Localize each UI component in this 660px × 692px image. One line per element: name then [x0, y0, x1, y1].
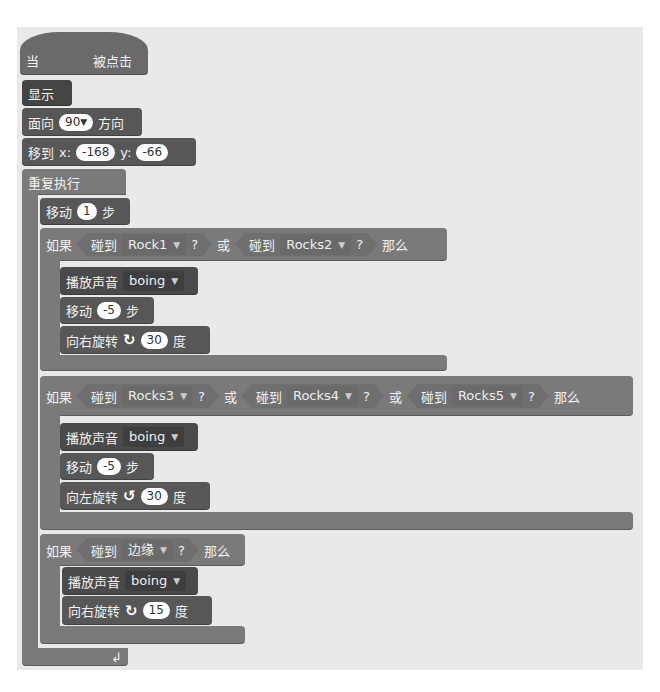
hat-prefix: 当 [26, 51, 39, 70]
q-mark: ? [363, 389, 370, 404]
move-block[interactable]: 移动 1 步 [40, 198, 130, 225]
direction-input[interactable]: 90▼ [59, 114, 93, 131]
move-suffix: 步 [126, 457, 139, 476]
then-label: 那么 [382, 235, 408, 254]
turn-right-icon: ↻ [125, 602, 138, 620]
y-label: y: [120, 145, 131, 160]
q-mark: ? [356, 237, 363, 252]
x-input[interactable]: -168 [76, 144, 115, 161]
sound-dropdown[interactable]: boing▼ [123, 427, 184, 447]
move-suffix: 步 [126, 301, 139, 320]
turn-prefix: 向左旋转 [66, 487, 118, 506]
turn-suffix: 度 [173, 331, 186, 350]
y-input[interactable]: -66 [136, 144, 168, 161]
move-suffix: 步 [102, 202, 115, 221]
turn-prefix: 向右旋转 [68, 601, 120, 620]
if-block-2[interactable]: 如果 碰到 Rocks3▼ ? 或 碰到 Rocks4▼ ? 或 碰到 Rock… [40, 376, 633, 416]
forever-label: 重复执行 [28, 173, 80, 192]
steps-input[interactable]: -5 [97, 458, 121, 475]
or-label: 或 [389, 387, 402, 406]
if-arm [40, 412, 60, 516]
play-sound-block[interactable]: 播放声音 boing▼ [62, 567, 198, 595]
if-footer [40, 626, 245, 644]
x-label: x: [59, 145, 71, 160]
turn-right-block[interactable]: 向右旋转 ↻ 15 度 [62, 596, 212, 625]
forever-arm [22, 190, 38, 660]
show-block[interactable]: 显示 [22, 80, 72, 106]
target-dropdown[interactable]: Rocks3▼ [122, 386, 193, 406]
play-sound-block[interactable]: 播放声音 boing▼ [60, 267, 198, 295]
target-dropdown[interactable]: Rocks2▼ [280, 235, 351, 255]
move-block[interactable]: 移动 -5 步 [60, 453, 154, 480]
move-prefix: 移动 [66, 301, 92, 320]
turn-prefix: 向右旋转 [66, 331, 118, 350]
move-prefix: 移动 [66, 457, 92, 476]
if-footer [40, 355, 447, 371]
if-label: 如果 [46, 541, 72, 560]
degrees-input[interactable]: 15 [143, 602, 170, 619]
if-label: 如果 [46, 235, 72, 254]
target-dropdown[interactable]: 边缘▼ [122, 540, 173, 560]
q-mark: ? [178, 543, 185, 558]
goto-xy-block[interactable]: 移到 x: -168 y: -66 [22, 138, 196, 166]
forever-footer: ↲ [22, 648, 128, 666]
q-mark: ? [191, 237, 198, 252]
touching-condition-1[interactable]: 碰到 Rock1▼ ? [77, 233, 212, 257]
touch-label: 碰到 [91, 541, 117, 560]
sound-dropdown[interactable]: boing▼ [125, 571, 186, 591]
touching-condition-2[interactable]: 碰到 Rocks2▼ ? [235, 233, 377, 257]
steps-input[interactable]: -5 [97, 302, 121, 319]
if-block-3[interactable]: 如果 碰到 边缘▼ ? 那么 [40, 534, 245, 566]
touch-label: 碰到 [256, 387, 282, 406]
turn-left-icon: ↺ [123, 487, 136, 505]
then-label: 那么 [204, 541, 230, 560]
if-arm [40, 562, 60, 632]
touch-label: 碰到 [91, 235, 117, 254]
or-label: 或 [224, 387, 237, 406]
q-mark: ? [198, 389, 205, 404]
play-sound-block[interactable]: 播放声音 boing▼ [60, 423, 198, 451]
target-dropdown[interactable]: Rock1▼ [122, 235, 186, 255]
q-mark: ? [528, 389, 535, 404]
move-prefix: 移动 [46, 202, 72, 221]
when-flag-clicked-block[interactable]: 当 被点击 [20, 32, 148, 75]
degrees-input[interactable]: 30 [141, 488, 168, 505]
sound-dropdown[interactable]: boing▼ [123, 271, 184, 291]
steps-input[interactable]: 1 [77, 203, 97, 220]
touch-label: 碰到 [91, 387, 117, 406]
target-dropdown[interactable]: Rocks5▼ [452, 386, 523, 406]
touching-edge-condition[interactable]: 碰到 边缘▼ ? [77, 538, 199, 562]
goto-prefix: 移到 [28, 143, 54, 162]
turn-left-block[interactable]: 向左旋转 ↺ 30 度 [60, 482, 210, 510]
touch-label: 碰到 [421, 387, 447, 406]
then-label: 那么 [554, 387, 580, 406]
turn-right-icon: ↻ [123, 331, 136, 349]
touch-label: 碰到 [249, 235, 275, 254]
sound-label: 播放声音 [66, 272, 118, 291]
if-footer [40, 512, 633, 530]
touching-condition-4[interactable]: 碰到 Rocks4▼ ? [242, 384, 384, 408]
point-suffix: 方向 [98, 113, 124, 132]
turn-right-block[interactable]: 向右旋转 ↻ 30 度 [60, 326, 210, 354]
sound-label: 播放声音 [66, 428, 118, 447]
touching-condition-5[interactable]: 碰到 Rocks5▼ ? [407, 384, 549, 408]
point-direction-block[interactable]: 面向 90▼ 方向 [22, 108, 142, 136]
touching-condition-3[interactable]: 碰到 Rocks3▼ ? [77, 384, 219, 408]
turn-suffix: 度 [173, 487, 186, 506]
loop-arrow-icon: ↲ [111, 650, 122, 665]
show-label: 显示 [28, 84, 54, 103]
hat-suffix: 被点击 [93, 51, 132, 70]
if-arm [40, 258, 60, 358]
degrees-input[interactable]: 30 [141, 332, 168, 349]
sound-label: 播放声音 [68, 572, 120, 591]
point-prefix: 面向 [28, 113, 54, 132]
move-block[interactable]: 移动 -5 步 [60, 297, 154, 324]
if-block-1[interactable]: 如果 碰到 Rock1▼ ? 或 碰到 Rocks2▼ ? 那么 [40, 228, 447, 261]
or-label: 或 [217, 235, 230, 254]
target-dropdown[interactable]: Rocks4▼ [287, 386, 358, 406]
turn-suffix: 度 [175, 601, 188, 620]
if-label: 如果 [46, 387, 72, 406]
